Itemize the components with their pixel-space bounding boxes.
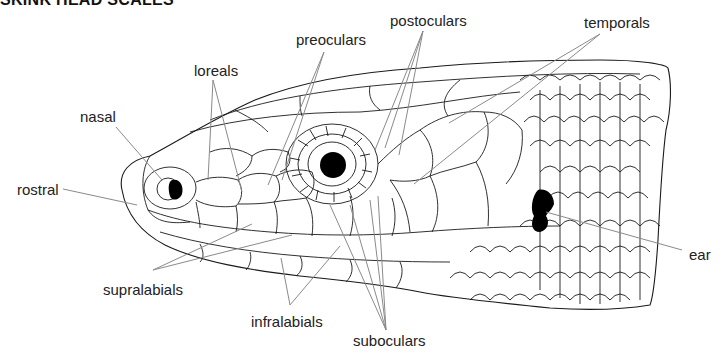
- skink-head-drawing: [0, 0, 722, 360]
- label-preoculars: preoculars: [296, 31, 366, 48]
- label-supralabials: supralabials: [103, 281, 183, 298]
- label-suboculars: suboculars: [353, 332, 426, 349]
- label-nasal: nasal: [80, 108, 116, 125]
- label-ear: ear: [689, 246, 711, 263]
- label-rostral: rostral: [17, 181, 59, 198]
- label-temporals: temporals: [584, 14, 650, 31]
- label-postoculars: postoculars: [390, 12, 467, 29]
- eye: [320, 152, 346, 178]
- label-loreals: loreals: [194, 62, 238, 79]
- label-infralabials: infralabials: [251, 313, 323, 330]
